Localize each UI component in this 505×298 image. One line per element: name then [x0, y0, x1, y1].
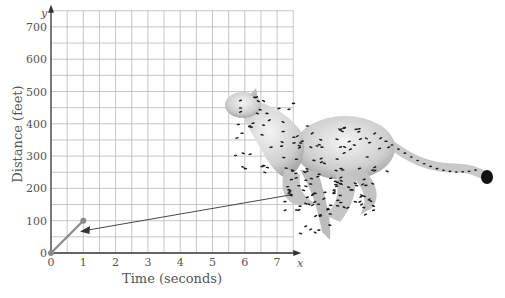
- annotation-arrow: [80, 195, 290, 234]
- x-axis-letter: x: [297, 257, 304, 270]
- x-tick-label: 5: [209, 256, 216, 269]
- x-tick-label: 6: [241, 256, 248, 269]
- y-tick-label: 0: [40, 247, 47, 260]
- x-tick-label: 3: [144, 256, 151, 269]
- x-tick-label: 2: [112, 256, 119, 269]
- data-point: [48, 250, 54, 256]
- x-tick-label: 1: [80, 256, 87, 269]
- cheetah-illustration: [225, 88, 493, 240]
- x-tick-label: 7: [274, 256, 281, 269]
- y-tick-label: 600: [26, 53, 47, 66]
- y-tick-label: 100: [26, 215, 47, 228]
- chart-figure: 012345670100200300400500600700 Time (sec…: [0, 0, 505, 298]
- y-tick-label: 400: [26, 118, 47, 131]
- y-tick-label: 500: [26, 86, 47, 99]
- x-axis-label: Time (seconds): [122, 271, 222, 286]
- tick-labels: 012345670100200300400500600700: [26, 21, 281, 269]
- y-tick-label: 300: [26, 150, 47, 163]
- y-axis-letter: y: [40, 7, 48, 20]
- data-point: [80, 218, 86, 224]
- y-axis-label: Distance (feet): [10, 85, 25, 182]
- x-tick-label: 4: [177, 256, 184, 269]
- y-tick-label: 700: [26, 21, 47, 34]
- y-tick-label: 200: [26, 182, 47, 195]
- x-tick-label: 0: [48, 256, 55, 269]
